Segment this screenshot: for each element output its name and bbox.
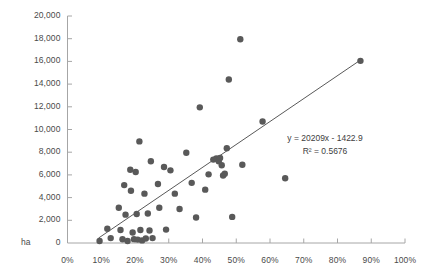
data-point <box>96 238 102 244</box>
trendline-r2-text: R² = 0.5676 <box>270 145 380 158</box>
trendline-equation-text: y = 20209x - 1422.9 <box>270 132 380 145</box>
data-point <box>205 171 211 177</box>
data-point <box>128 188 134 194</box>
y-axis-tick-label: 10,000 <box>34 124 61 134</box>
trendline-equation-annotation: y = 20209x - 1422.9 R² = 0.5676 <box>270 132 380 157</box>
data-point <box>219 162 225 168</box>
data-point <box>229 214 235 220</box>
data-point <box>143 235 149 241</box>
data-point <box>163 226 169 232</box>
data-point <box>108 235 114 241</box>
y-axis-tick-label: 8,000 <box>39 146 61 156</box>
data-point <box>226 76 232 82</box>
data-point <box>155 181 161 187</box>
data-point <box>282 175 288 181</box>
y-axis-tick-label: 4,000 <box>39 192 61 202</box>
data-point <box>146 227 152 233</box>
y-axis-tick-label: 14,000 <box>34 78 61 88</box>
data-point <box>124 238 130 244</box>
data-point <box>132 169 138 175</box>
data-point <box>141 190 147 196</box>
y-axis-tick-label: 6,000 <box>39 169 61 179</box>
y-axis-tick-label: 12,000 <box>34 101 61 111</box>
data-point <box>183 150 189 156</box>
scatter-chart: ha 02,0004,0006,0008,00010,00012,00014,0… <box>0 0 421 279</box>
y-axis-tick-label: 20,000 <box>34 10 61 20</box>
y-axis-tick-label: 2,000 <box>39 214 61 224</box>
data-point <box>259 118 265 124</box>
data-point <box>237 36 243 42</box>
data-point <box>189 180 195 186</box>
data-point <box>239 161 245 167</box>
data-point <box>202 186 208 192</box>
data-point <box>156 205 162 211</box>
data-point <box>122 211 128 217</box>
data-point <box>193 214 199 220</box>
x-axis-tick-label: 100% <box>385 255 421 265</box>
y-axis-tick-label: 18,000 <box>34 33 61 43</box>
data-point <box>176 206 182 212</box>
data-point <box>116 205 122 211</box>
data-point <box>145 210 151 216</box>
data-point <box>217 155 223 161</box>
y-axis-tick-label: 0 <box>56 237 61 247</box>
data-point <box>117 227 123 233</box>
data-point <box>172 190 178 196</box>
data-point <box>129 229 135 235</box>
data-point <box>133 211 139 217</box>
data-point <box>121 182 127 188</box>
data-point <box>148 158 154 164</box>
y-axis-unit-label: ha <box>21 237 30 247</box>
data-point <box>149 235 155 241</box>
data-point <box>167 167 173 173</box>
data-point <box>137 227 143 233</box>
data-point <box>161 164 167 170</box>
data-point <box>136 138 142 144</box>
data-point <box>222 171 228 177</box>
data-point <box>104 226 110 232</box>
data-point <box>197 104 203 110</box>
data-point <box>224 145 230 151</box>
y-axis-tick-label: 16,000 <box>34 55 61 65</box>
data-point <box>357 58 363 64</box>
